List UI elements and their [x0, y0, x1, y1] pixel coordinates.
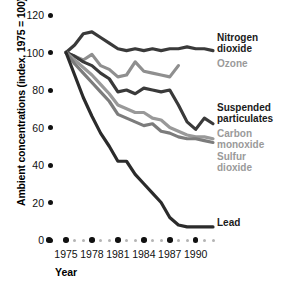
series-line: [66, 53, 213, 130]
series-label-ozone: Ozone: [217, 59, 248, 70]
series-label-suspended-particulates: Suspended particulates: [217, 103, 273, 124]
x-axis-title: Year: [55, 266, 77, 278]
series-label-sulfur-dioxide: Sulfur dioxide: [217, 152, 252, 173]
chart-container: Ambient concentrations (index, 1975 = 10…: [0, 0, 297, 284]
series-label-carbon-monoxide: Carbon monoxide: [217, 129, 264, 150]
series-label-nitrogen-dioxide: Nitrogen dioxide: [217, 33, 258, 54]
series-line: [66, 32, 213, 53]
series-label-lead: Lead: [217, 218, 240, 229]
